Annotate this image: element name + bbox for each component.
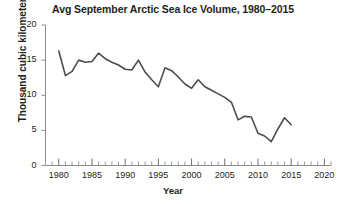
y-axis-major-ticks	[42, 25, 46, 166]
y-tick-label: 15	[17, 54, 37, 64]
x-tick-label: 1985	[75, 170, 109, 180]
x-tick-label: 2020	[307, 170, 341, 180]
axis-lines	[46, 25, 332, 166]
x-tick-label: 1980	[42, 170, 76, 180]
x-tick-label: 2005	[208, 170, 242, 180]
y-tick-label: 5	[17, 124, 37, 134]
x-tick-label: 2015	[274, 170, 308, 180]
x-tick-label: 2010	[241, 170, 275, 180]
x-tick-label: 1990	[108, 170, 142, 180]
y-tick-label: 0	[17, 160, 37, 170]
y-tick-label: 20	[17, 19, 37, 29]
data-series-line	[59, 51, 291, 142]
chart-figure: Avg September Arctic Sea Ice Volume, 198…	[0, 0, 346, 204]
y-tick-label: 10	[17, 89, 37, 99]
x-axis-minor-ticks	[46, 162, 332, 166]
x-tick-label: 1995	[141, 170, 175, 180]
x-tick-label: 2000	[175, 170, 209, 180]
